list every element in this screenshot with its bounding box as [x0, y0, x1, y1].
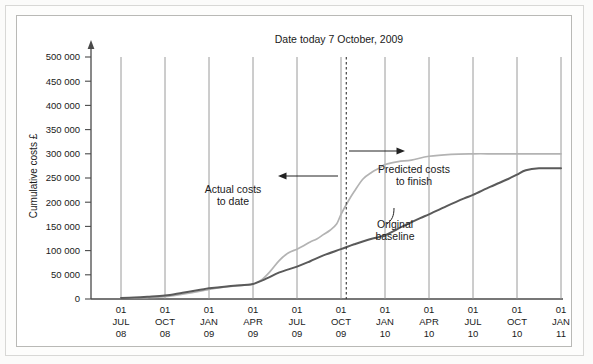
y-tick-label: 450 000: [46, 76, 80, 87]
x-tick-month: APR: [419, 316, 439, 327]
y-tick-label: 150 000: [46, 221, 80, 232]
original-baseline-annotation: Original baseline: [375, 218, 414, 242]
x-tick-month: JUL: [113, 316, 130, 327]
x-tick-day: 01: [468, 304, 479, 315]
original-baseline-line2: baseline: [375, 230, 414, 242]
x-tick-year: 10: [380, 328, 391, 339]
x-tick-year: 08: [160, 328, 171, 339]
x-tick-group: 01 JUL 08 01 OCT 08 01 JAN 09 01 APR: [113, 304, 571, 339]
x-tick-year: 11: [556, 328, 566, 339]
x-tick-label: 01 JUL 08: [113, 304, 130, 339]
actual-costs-line2: to date: [217, 195, 249, 207]
x-tick-day: 01: [380, 304, 391, 315]
x-tick-label: 01 APR 10: [419, 304, 439, 339]
y-tick-group: 0 50 000 100 000 150 000 200 000 250 000…: [46, 51, 91, 304]
y-tick-label: 400 000: [46, 100, 80, 111]
arrowhead-left-icon: [278, 172, 287, 179]
annotation-leader-predicted: [349, 147, 405, 154]
annotation-leader-actual: [278, 172, 338, 179]
original-baseline-line1: Original: [377, 218, 413, 230]
x-tick-month: JUL: [465, 316, 482, 327]
predicted-costs-line1: Predicted costs: [378, 163, 450, 175]
y-tick-label: 500 000: [46, 51, 80, 62]
y-tick-label: 350 000: [46, 124, 80, 135]
x-tick-month: JAN: [552, 316, 570, 327]
gridlines: [121, 57, 561, 299]
page-canvas: Date today 7 October, 2009 0 50 000 100 …: [0, 0, 593, 364]
x-tick-year: 10: [468, 328, 479, 339]
x-tick-day: 01: [556, 304, 567, 315]
chart-inner-border: Date today 7 October, 2009 0 50 000 100 …: [16, 15, 572, 347]
x-tick-month: OCT: [507, 316, 527, 327]
cumulative-cost-chart: Date today 7 October, 2009 0 50 000 100 …: [17, 16, 571, 346]
x-tick-year: 10: [512, 328, 523, 339]
x-tick-label: 01 OCT 10: [507, 304, 527, 339]
x-tick-label: 01 APR 09: [243, 304, 263, 339]
x-tick-label: 01 JUL 09: [289, 304, 306, 339]
x-tick-day: 01: [116, 304, 127, 315]
x-tick-year: 10: [424, 328, 435, 339]
y-tick-label: 200 000: [46, 197, 80, 208]
x-tick-day: 01: [424, 304, 435, 315]
x-tick-label: 01 JUL 10: [465, 304, 482, 339]
arrowhead-right-icon: [397, 147, 406, 154]
actual-costs-line1: Actual costs: [205, 183, 262, 195]
x-tick-day: 01: [292, 304, 303, 315]
x-tick-month: OCT: [155, 316, 175, 327]
x-tick-month: APR: [243, 316, 263, 327]
y-axis-title: Cumulative costs £: [28, 133, 39, 218]
x-tick-year: 09: [204, 328, 215, 339]
x-tick-month: JAN: [200, 316, 218, 327]
y-tick-label: 300 000: [46, 148, 80, 159]
y-axis-arrowhead: [88, 40, 95, 49]
predicted-costs-line2: to finish: [396, 175, 432, 187]
y-tick-label: 50 000: [51, 269, 80, 280]
chart-title: Date today 7 October, 2009: [275, 33, 404, 45]
x-tick-month: JUL: [289, 316, 306, 327]
x-tick-label: 01 JAN 09: [200, 304, 218, 339]
x-tick-year: 09: [336, 328, 347, 339]
x-tick-day: 01: [248, 304, 259, 315]
x-tick-day: 01: [204, 304, 215, 315]
x-tick-month: OCT: [331, 316, 351, 327]
y-tick-label: 250 000: [46, 172, 80, 183]
x-tick-label: 01 OCT 09: [331, 304, 351, 339]
x-tick-day: 01: [512, 304, 523, 315]
y-tick-label: 100 000: [46, 245, 80, 256]
x-tick-label: 01 OCT 08: [155, 304, 175, 339]
x-tick-year: 09: [292, 328, 303, 339]
x-tick-day: 01: [336, 304, 347, 315]
y-tick-label: 0: [75, 293, 80, 304]
predicted-costs-annotation: Predicted costs to finish: [378, 163, 450, 187]
x-tick-label: 01 JAN 11: [552, 304, 570, 339]
x-tick-day: 01: [160, 304, 171, 315]
y-axis: [88, 40, 95, 299]
x-tick-year: 09: [248, 328, 259, 339]
x-tick-month: JAN: [376, 316, 394, 327]
x-tick-year: 08: [116, 328, 127, 339]
x-tick-label: 01 JAN 10: [376, 304, 394, 339]
